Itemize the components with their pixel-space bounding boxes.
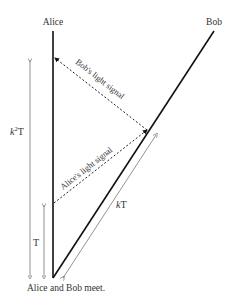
bob-light-signal xyxy=(55,58,147,130)
spacetime-diagram: Alice Bob Bob's light signal Alice's lig… xyxy=(0,0,229,301)
bob-signal-label: Bob's light signal xyxy=(74,57,127,102)
k2t-label: k2T xyxy=(10,125,24,137)
t-label: T xyxy=(33,237,39,248)
alice-label: Alice xyxy=(43,17,64,27)
alice-signal-label: Alice's light signal xyxy=(58,144,115,191)
meeting-event-label: Alice and Bob meet. xyxy=(27,283,105,293)
bob-label: Bob xyxy=(206,17,222,27)
kt-interval-arrow xyxy=(63,135,156,278)
bob-worldline xyxy=(53,31,214,278)
kt-label: kT xyxy=(116,199,127,210)
alice-light-signal xyxy=(54,130,147,203)
